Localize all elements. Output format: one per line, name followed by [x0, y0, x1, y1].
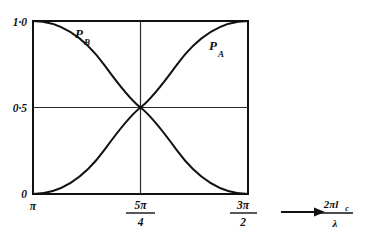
- figure-container: 1·0 0·5 0 π 5π 4 3π 2 P B: [0, 0, 366, 252]
- x-axis-title-denominator: λ: [332, 217, 338, 229]
- curve-label-pb-subscript: B: [83, 37, 90, 47]
- y-axis-ticks: 1·0 0·5 0: [13, 16, 28, 200]
- y-tick-label-0-5: 0·5: [13, 102, 28, 114]
- x-tick-label-5pi-4: 5π 4: [126, 199, 155, 228]
- x-axis-title-numerator-subscript: c: [345, 204, 349, 213]
- x-tick-3pi-2-numerator: 3π: [236, 199, 250, 211]
- x-tick-5pi-4-numerator: 5π: [134, 199, 147, 211]
- x-tick-5pi-4-denominator: 4: [137, 216, 144, 228]
- x-axis-title: 2πl c λ: [281, 198, 353, 229]
- x-tick-label-3pi-2: 3π 2: [230, 199, 257, 228]
- x-tick-label-pi: π: [30, 200, 37, 212]
- y-tick-label-1-0: 1·0: [13, 16, 28, 28]
- x-axis-title-numerator: 2πl: [323, 198, 340, 210]
- x-axis-ticks: π 5π 4 3π 2: [30, 199, 257, 228]
- chart-svg: 1·0 0·5 0 π 5π 4 3π 2 P B: [0, 0, 366, 252]
- curve-annotations: P B P A: [75, 26, 224, 59]
- x-tick-3pi-2-denominator: 2: [239, 216, 246, 228]
- curve-label-pa: P A: [209, 38, 224, 59]
- curve-label-pa-subscript: A: [217, 49, 224, 59]
- curve-label-pb-main: P: [75, 26, 84, 41]
- y-tick-label-0: 0: [21, 188, 27, 200]
- curve-label-pb: P B: [75, 26, 90, 47]
- x-axis-arrow-icon: [281, 208, 325, 217]
- curve-label-pa-main: P: [209, 38, 218, 53]
